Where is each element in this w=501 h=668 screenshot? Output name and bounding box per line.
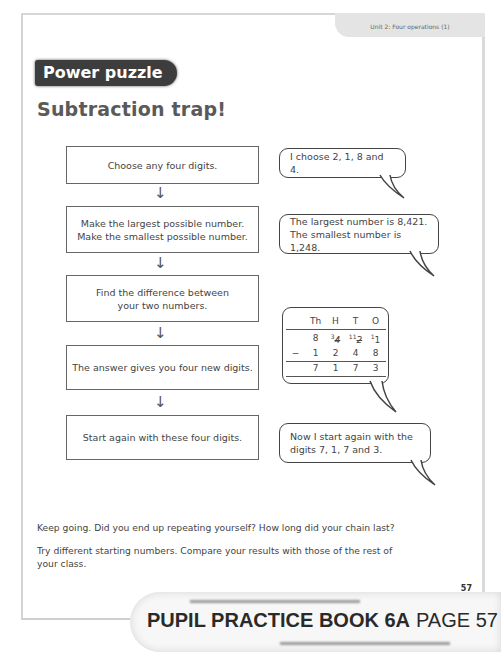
speech-tail-icon (409, 459, 439, 487)
place-header: H (326, 315, 346, 330)
minus-sign: − (286, 347, 306, 362)
workbook-page: Unit 2: Four operations (1) Power puzzle… (21, 13, 485, 620)
place-header: T (346, 315, 366, 330)
flow-step-1: Choose any four digits. (66, 146, 259, 184)
minuend-digit: 8 (306, 329, 326, 347)
instruction-paragraph-2: Try different starting numbers. Compare … (37, 544, 467, 570)
banner-decoration (190, 600, 360, 603)
place-header: O (366, 315, 386, 330)
book-page-banner: PUPIL PRACTICE BOOK 6APAGE 57 (130, 592, 501, 652)
down-arrow-icon: ↓ (154, 326, 167, 341)
page-reference: PAGE 57 (416, 609, 498, 631)
step-text: Make the smallest possible number. (77, 230, 248, 243)
result-digit: 7 (306, 361, 326, 376)
bubble-text: digits 7, 1, 7 and 3. (290, 443, 413, 456)
banner-label: PUPIL PRACTICE BOOK 6APAGE 57 (147, 609, 498, 632)
result-digit: 3 (366, 361, 386, 376)
subtraction-bubble: Th H T O 8 34 112 11 − 1 2 4 8 7 (282, 307, 389, 384)
bubble-text: The largest number is 8,421. (290, 215, 428, 228)
subtrahend-digit: 1 (306, 347, 326, 362)
power-puzzle-badge: Power puzzle (35, 60, 177, 86)
speech-tail-icon (378, 174, 408, 200)
unit-header-tab: Unit 2: Four operations (1) (335, 13, 485, 37)
bubble-text: Now I start again with the (290, 430, 413, 443)
subtrahend-digit: 4 (346, 347, 366, 362)
speech-tail-icon (368, 380, 400, 414)
flow-step-2: Make the largest possible number. Make t… (66, 206, 259, 253)
down-arrow-icon: ↓ (154, 256, 167, 271)
down-arrow-icon: ↓ (154, 395, 167, 410)
page-title: Subtraction trap! (37, 98, 226, 120)
result-digit: 7 (346, 361, 366, 376)
minuend-digit: 112 (346, 329, 366, 347)
place-header: Th (306, 315, 326, 330)
result-digit: 1 (326, 361, 346, 376)
paragraph-line: your class. (37, 557, 467, 570)
unit-label: Unit 2: Four operations (1) (370, 23, 449, 30)
banner-decoration (280, 642, 450, 645)
column-subtraction: Th H T O 8 34 112 11 − 1 2 4 8 7 (286, 315, 386, 377)
bubble-text: I choose 2, 1, 8 and 4. (290, 150, 395, 176)
flow-step-4: The answer gives you four new digits. (66, 345, 259, 390)
minuend-digit: 34 (326, 329, 346, 347)
step-text: The answer gives you four new digits. (72, 361, 252, 374)
step-text: Choose any four digits. (108, 159, 218, 172)
step-text: Make the largest possible number. (77, 217, 248, 230)
flow-step-3: Find the difference between your two num… (66, 275, 259, 322)
instruction-paragraph-1: Keep going. Did you end up repeating you… (37, 521, 467, 534)
step-text: Start again with these four digits. (83, 431, 242, 444)
speech-bubble-2: The largest number is 8,421. The smalles… (279, 214, 439, 254)
minuend-digit: 11 (366, 329, 386, 347)
paragraph-line: Try different starting numbers. Compare … (37, 544, 467, 557)
flow-step-5: Start again with these four digits. (66, 415, 259, 460)
step-text: Find the difference between (96, 286, 229, 299)
step-text: your two numbers. (96, 299, 229, 312)
subtrahend-digit: 2 (326, 347, 346, 362)
speech-tail-icon (408, 250, 438, 278)
speech-bubble-3: Now I start again with the digits 7, 1, … (279, 423, 431, 463)
subtrahend-digit: 8 (366, 347, 386, 362)
book-title: PUPIL PRACTICE BOOK 6A (147, 609, 410, 631)
down-arrow-icon: ↓ (154, 186, 167, 201)
badge-label: Power puzzle (43, 63, 163, 82)
